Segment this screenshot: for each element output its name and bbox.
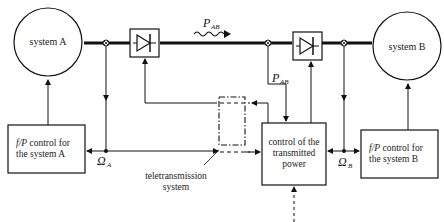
p-ab-top-subscript: AB — [210, 23, 220, 31]
omega-a-subscript: A — [106, 161, 112, 169]
measurement-point-mid — [265, 40, 271, 46]
teletransmission-leader — [204, 150, 219, 165]
power-control-line3: power — [282, 159, 307, 169]
omega-a-node — [104, 149, 108, 153]
fp-control-a-line2: the system A — [16, 149, 65, 159]
converter-b-icon — [293, 32, 322, 60]
fp-control-b-line2: the system B — [369, 154, 418, 164]
fp-control-b: f/P control for the system B — [361, 130, 438, 178]
omega-b-node — [342, 149, 346, 153]
teletransmission-system — [213, 97, 250, 152]
signal-lines — [48, 46, 408, 222]
hvdc-control-diagram: system A system B P AB — [0, 0, 444, 222]
system-b: system B — [373, 12, 441, 80]
measurement-point-b — [341, 40, 347, 46]
teletransmission-label-line2: system — [163, 182, 190, 192]
omega-b-subscript: B — [348, 162, 353, 170]
system-b-label: system B — [389, 41, 426, 52]
fp-control-b-line1: f/P control for — [369, 143, 424, 153]
converter-a-icon — [130, 29, 159, 57]
p-ab-top-symbol: P — [202, 16, 211, 30]
power-control-line1: control of the — [268, 137, 319, 147]
omega-a-symbol: Ω — [97, 154, 106, 168]
p-ab-side-symbol: P — [271, 71, 280, 85]
power-control-line2: transmitted — [273, 148, 316, 158]
power-flow-arrow: P AB — [194, 16, 231, 38]
system-a: system A — [14, 8, 82, 76]
omega-b-symbol: Ω — [338, 155, 347, 169]
p-ab-side-subscript: AB — [279, 78, 289, 86]
system-a-label: system A — [30, 36, 68, 47]
fp-control-a: f/P control for the system A — [8, 125, 85, 173]
measurement-point-a — [103, 40, 109, 46]
power-control: control of the transmitted power — [262, 123, 326, 185]
teletransmission-label-line1: teletransmission — [145, 171, 207, 181]
fp-control-a-line1: f/P control for — [16, 138, 71, 148]
